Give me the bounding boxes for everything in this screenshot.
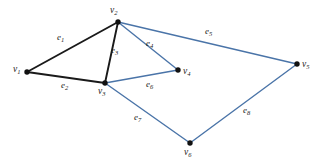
graph-figure: e1e2e3e4e5e6e7e8v1v2v3v4v5v6 <box>0 0 317 167</box>
vertex-label-subscript: 2 <box>114 9 117 16</box>
graph-edge-e7 <box>105 83 190 143</box>
edge-label-subscript: 6 <box>150 83 153 90</box>
edge-label-e8: e8 <box>243 106 250 115</box>
graph-canvas <box>0 0 317 167</box>
vertex-label-v5: v5 <box>302 60 309 70</box>
vertex-label-subscript: 5 <box>306 63 309 70</box>
vertex-label-v3: v3 <box>98 87 105 97</box>
vertex-label-v2: v2 <box>110 6 117 16</box>
vertex-label-subscript: 1 <box>17 68 20 75</box>
vertex-label-v4: v4 <box>183 67 190 77</box>
edge-label-subscript: 1 <box>61 36 64 43</box>
vertex-label-subscript: 3 <box>102 90 105 97</box>
edge-label-e2: e2 <box>61 81 68 90</box>
vertex-label-subscript: 6 <box>188 151 191 158</box>
graph-vertex-v5 <box>294 61 299 66</box>
edge-label-e1: e1 <box>57 33 64 42</box>
vertex-label-v6: v6 <box>184 148 191 158</box>
edge-label-e4: e4 <box>146 39 153 48</box>
edge-label-e3: e3 <box>111 46 118 55</box>
edge-label-subscript: 5 <box>209 30 212 37</box>
graph-edge-e1 <box>27 22 118 72</box>
edge-label-subscript: 7 <box>138 116 141 123</box>
vertex-label-subscript: 4 <box>187 70 190 77</box>
edge-label-e7: e7 <box>134 113 141 122</box>
graph-vertex-v2 <box>115 19 120 24</box>
edge-label-subscript: 2 <box>65 84 68 91</box>
edge-label-subscript: 4 <box>150 42 153 49</box>
graph-edge-e6 <box>105 70 178 83</box>
vertex-label-v1: v1 <box>13 65 20 75</box>
graph-edge-e8 <box>190 64 297 143</box>
edge-label-e5: e5 <box>205 27 212 36</box>
edge-label-subscript: 8 <box>247 109 250 116</box>
edge-label-e6: e6 <box>146 80 153 89</box>
graph-vertex-v3 <box>102 80 107 85</box>
graph-vertex-v4 <box>175 67 180 72</box>
graph-vertex-v1 <box>24 69 29 74</box>
edge-label-subscript: 3 <box>115 49 118 56</box>
graph-vertex-v6 <box>187 140 192 145</box>
